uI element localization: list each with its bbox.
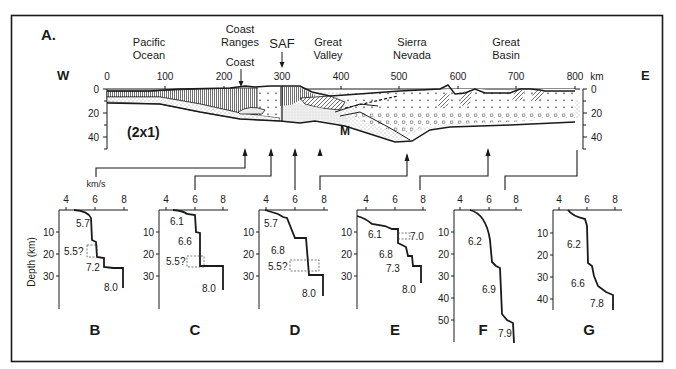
profile-leader-lines (96, 150, 577, 190)
svg-text:5.5?: 5.5? (268, 261, 288, 272)
svg-text:6.8: 6.8 (271, 245, 285, 256)
depth-axis-title: Depth (km) (26, 237, 37, 286)
svg-text:40: 40 (537, 294, 549, 305)
svg-text:8: 8 (612, 194, 618, 205)
profile-label-d: D (290, 321, 301, 338)
profile-label-b: B (90, 321, 101, 338)
left-depth-axis: 0 20 40 (88, 84, 107, 149)
profile-g: 4 6 8 10 20 30 40 6.2 6.6 7.8 G (537, 194, 622, 338)
right-depth-axis: 0 20 40 (583, 84, 603, 149)
arrowhead-icon (293, 148, 298, 156)
svg-text:0: 0 (104, 71, 110, 82)
profile-label-g: G (583, 321, 595, 338)
panel-label: A. (41, 26, 56, 43)
svg-text:20: 20 (143, 249, 155, 260)
svg-text:5.7: 5.7 (76, 218, 90, 229)
svg-text:6: 6 (292, 194, 298, 205)
moho-label: M (340, 124, 350, 138)
svg-text:20: 20 (341, 249, 353, 260)
svg-text:6.2: 6.2 (567, 239, 581, 250)
svg-text:40: 40 (88, 132, 100, 143)
svg-text:8: 8 (121, 194, 127, 205)
svg-text:6: 6 (192, 194, 198, 205)
svg-text:10: 10 (438, 227, 450, 238)
svg-text:400: 400 (333, 71, 350, 82)
region-sierra-nevada-line2: Nevada (393, 49, 432, 61)
region-pacific-line2: Ocean (133, 49, 165, 61)
arrowhead-icon (405, 153, 410, 161)
arrowhead-icon (269, 148, 274, 156)
svg-text:6: 6 (92, 194, 98, 205)
svg-text:6.6: 6.6 (571, 278, 585, 289)
region-great-valley-line1: Great (314, 36, 342, 48)
profile-f: 4 6 8 10 20 30 40 50 6.2 6.9 7.9 F (438, 194, 522, 343)
svg-text:20: 20 (43, 249, 55, 260)
svg-text:30: 30 (537, 272, 549, 283)
svg-text:5.5?: 5.5? (166, 256, 186, 267)
profile-label-e: E (390, 321, 400, 338)
svg-text:7.3: 7.3 (386, 263, 400, 274)
svg-text:6.1: 6.1 (170, 216, 184, 227)
svg-text:4: 4 (457, 194, 463, 205)
svg-text:5.7: 5.7 (264, 218, 278, 229)
east-label: E (641, 68, 650, 83)
svg-text:10: 10 (341, 227, 353, 238)
svg-text:300: 300 (274, 71, 291, 82)
profile-b: 4 6 8 10 20 30 5.7 5.5? 7.2 8.0 B (43, 194, 128, 338)
figure-frame (12, 16, 663, 362)
svg-text:6: 6 (584, 194, 590, 205)
svg-text:800: 800 (567, 71, 584, 82)
region-great-valley-line2: Valley (313, 49, 343, 61)
svg-text:30: 30 (43, 271, 55, 282)
svg-text:8.0: 8.0 (202, 283, 216, 294)
svg-text:8: 8 (321, 194, 327, 205)
region-great-basin-line1: Great (492, 36, 520, 48)
svg-text:10: 10 (537, 228, 549, 239)
svg-text:7.8: 7.8 (590, 298, 604, 309)
svg-text:6.1: 6.1 (368, 229, 382, 240)
svg-text:7.9: 7.9 (498, 328, 512, 339)
svg-text:6.6: 6.6 (178, 236, 192, 247)
svg-text:700: 700 (508, 71, 525, 82)
svg-text:100: 100 (157, 71, 174, 82)
svg-text:4: 4 (363, 194, 369, 205)
svg-text:4: 4 (556, 194, 562, 205)
arrowhead-icon (486, 148, 491, 156)
west-label: W (57, 68, 70, 83)
scale-note: (2x1) (127, 124, 160, 140)
region-coast: Coast (226, 56, 255, 68)
svg-text:500: 500 (391, 71, 408, 82)
profile-label-f: F (478, 321, 487, 338)
svg-text:10: 10 (243, 227, 255, 238)
svg-text:10: 10 (43, 227, 55, 238)
svg-text:8.0: 8.0 (402, 284, 416, 295)
region-coast-ranges-line2: Ranges (221, 36, 259, 48)
svg-text:20: 20 (591, 108, 603, 119)
svg-text:40: 40 (438, 293, 450, 304)
svg-text:6.2: 6.2 (468, 236, 482, 247)
profile-e: 4 6 8 10 20 30 6.1 7.0 6.8 7.3 8.0 E (341, 194, 426, 338)
svg-text:30: 30 (243, 271, 255, 282)
svg-text:4: 4 (163, 194, 169, 205)
velocity-unit: km/s (87, 179, 106, 189)
region-coast-ranges-line1: Coast (226, 23, 255, 35)
region-labels: Pacific Ocean Coast Ranges Coast SAF Gre… (133, 23, 520, 68)
arrowhead-icon (318, 148, 323, 156)
svg-text:8.0: 8.0 (302, 288, 316, 299)
svg-text:km: km (590, 71, 603, 82)
svg-text:8: 8 (220, 194, 226, 205)
svg-text:0: 0 (93, 84, 99, 95)
profile-c: 4 6 8 10 20 30 6.1 6.6 5.5? 8.0 C (143, 194, 228, 338)
svg-text:200: 200 (216, 71, 233, 82)
region-sierra-nevada-line1: Sierra (397, 36, 427, 48)
svg-text:30: 30 (341, 271, 353, 282)
svg-text:20: 20 (88, 108, 100, 119)
svg-text:6: 6 (392, 194, 398, 205)
svg-text:4: 4 (63, 194, 69, 205)
svg-text:30: 30 (438, 271, 450, 282)
svg-text:6.9: 6.9 (482, 284, 496, 295)
svg-text:10: 10 (143, 227, 155, 238)
svg-text:0: 0 (591, 84, 597, 95)
svg-text:7.2: 7.2 (86, 262, 100, 273)
arrowhead-icon (243, 148, 248, 156)
